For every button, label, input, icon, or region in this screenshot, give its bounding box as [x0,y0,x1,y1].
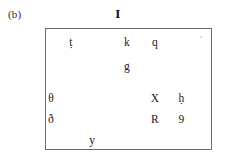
scatter-plot-box: ṭkqʾgθXḥðR9y [45,28,212,150]
plot-symbol: ʾ [200,36,203,44]
panel-label: (b) [8,8,21,20]
plot-symbol: y [89,135,95,147]
figure-title: I [115,6,121,22]
plot-symbol: ṭ [69,38,72,50]
plot-symbol: g [124,62,130,74]
plot-symbol: X [151,93,159,105]
plot-symbol: R [151,114,159,126]
plot-symbol: ḥ [178,93,184,105]
plot-symbol: k [124,38,130,50]
plot-symbol: ð [48,114,54,126]
plot-symbol: 9 [178,114,184,126]
figure-container: (b) I ṭkqʾgθXḥðR9y [0,0,229,163]
plot-symbol: θ [48,93,54,105]
plot-symbol: q [152,38,158,50]
